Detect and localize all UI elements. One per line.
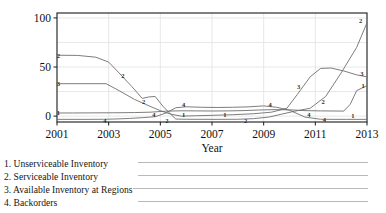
chart-plot-area: 0501002001200320052007200920112013Year22… [0, 0, 386, 152]
series-tag-2-3: 2 [165, 117, 168, 124]
x-tick-label-3: 2007 [201, 128, 224, 140]
series-tag-2-4: 2 [244, 117, 247, 124]
chart-legend: 1. Unserviceable Inventory 2. Serviceabl… [4, 155, 382, 211]
series-tag-1-11: 1 [182, 111, 185, 118]
series-tag-2-5: 2 [321, 98, 324, 105]
y-tick-label-0: 0 [45, 110, 51, 122]
x-axis-title: Year [201, 142, 222, 152]
legend-label-4: 4. Backorders [4, 196, 57, 209]
series-tag-1-13: 1 [351, 112, 354, 119]
legend-item-1: 1. Unserviceable Inventory [4, 155, 382, 168]
y-axis: 050100 [34, 12, 57, 122]
x-tick-label-6: 2013 [356, 128, 379, 140]
x-tick-label-0: 2001 [46, 128, 69, 140]
series-tag-2-0: 2 [57, 52, 60, 59]
series-tag-4-18: 4 [269, 101, 273, 108]
y-tick-label-2: 100 [34, 12, 52, 24]
x-tick-label-1: 2003 [97, 128, 120, 140]
grid-lines [57, 13, 367, 122]
legend-sample-line-1 [138, 162, 368, 163]
legend-item-2: 2. Serviceable Inventory [4, 168, 382, 181]
series-tag-2-2: 2 [142, 98, 145, 105]
series-tag-1-12: 1 [223, 111, 226, 118]
series-tag-2-1: 2 [121, 72, 124, 79]
series-tag-3-8: 3 [297, 83, 301, 90]
series-tag-4-19: 4 [307, 111, 311, 118]
series-tag-2-6: 2 [359, 17, 362, 24]
legend-sample-line-2 [138, 175, 368, 176]
x-tick-label-2: 2005 [149, 128, 172, 140]
y-tick-label-1: 50 [40, 61, 52, 73]
inventory-line-chart: 0501002001200320052007200920112013Year22… [0, 0, 386, 152]
legend-sample-line-3 [133, 188, 368, 189]
figure-chart-inventory: 0501002001200320052007200920112013Year22… [0, 0, 386, 213]
series-tag-1-10: 1 [57, 109, 60, 116]
legend-item-4: 4. Backorders [4, 194, 382, 207]
x-axis: 2001200320052007200920112013 [46, 122, 379, 140]
legend-item-3: 3. Available Inventory at Regions [4, 181, 382, 194]
series-tag-1-14: 1 [361, 82, 364, 89]
legend-sample-line-4 [138, 201, 368, 202]
x-tick-label-5: 2011 [304, 128, 327, 140]
x-tick-label-4: 2009 [252, 128, 275, 140]
